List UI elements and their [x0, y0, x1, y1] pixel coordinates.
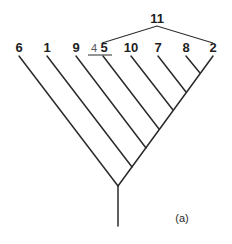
leaf-label-1: 1: [43, 40, 50, 55]
leaf-label-5: 5: [100, 40, 107, 55]
leaf-label-2: 2: [209, 40, 216, 55]
branch-6: [19, 56, 118, 186]
group-label: 11: [150, 11, 164, 26]
leaf-label-7: 7: [154, 40, 161, 55]
tree-edges: [19, 56, 213, 226]
figure-caption: (a): [175, 212, 188, 224]
cladogram-diagram: 11 6 1 9 4 5 10 7 8 2 (a): [0, 0, 232, 244]
branch-7: [158, 56, 186, 92]
leaf-labels: 6 1 9 4 5 10 7 8 2: [15, 40, 216, 55]
leaf-label-10: 10: [124, 40, 138, 55]
group-bracket-11: 11: [102, 11, 213, 43]
branch-9: [76, 56, 146, 148]
leaf-label-8: 8: [182, 40, 189, 55]
branch-8: [186, 56, 200, 73]
leaf-label-4-prefix: 4: [91, 42, 97, 54]
leaf-label-9: 9: [72, 40, 79, 55]
branch-5: [103, 56, 159, 129]
leaf-label-6: 6: [15, 40, 22, 55]
